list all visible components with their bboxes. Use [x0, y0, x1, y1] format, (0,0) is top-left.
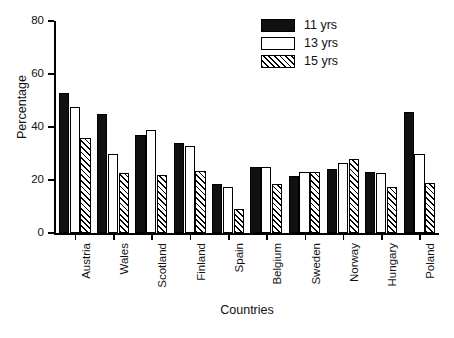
bar — [349, 159, 359, 233]
x-tick-label: Spain — [233, 243, 245, 272]
bar — [119, 173, 129, 233]
x-tick-label: Scotland — [156, 243, 168, 288]
x-tick-mark — [343, 234, 345, 240]
x-tick-mark — [113, 234, 115, 240]
bar — [327, 169, 337, 233]
bar — [146, 130, 156, 233]
legend-item: 13 yrs — [261, 34, 338, 52]
x-axis-title: Countries — [0, 303, 454, 317]
bar — [261, 167, 271, 233]
y-tick-mark — [48, 126, 54, 128]
x-tick-label: Austria — [80, 243, 92, 279]
y-tick-mark — [48, 73, 54, 75]
legend-swatch-open — [261, 37, 295, 50]
x-tick-mark — [75, 234, 77, 240]
bar — [157, 175, 167, 233]
bar — [97, 114, 107, 233]
y-tick-mark — [48, 179, 54, 181]
bar — [387, 187, 397, 233]
bar — [404, 112, 414, 233]
bar — [59, 93, 69, 233]
x-tick-label: Belgium — [271, 243, 283, 285]
legend-item: 15 yrs — [261, 52, 338, 70]
bar — [250, 167, 260, 233]
bar — [70, 107, 80, 233]
bar — [425, 183, 435, 233]
x-tick-label: Sweden — [310, 243, 322, 285]
legend-swatch-hatch — [261, 55, 295, 68]
x-tick-label: Finland — [195, 243, 207, 281]
legend-item: 11 yrs — [261, 16, 338, 34]
bar — [376, 173, 386, 233]
y-tick-label: 40 — [4, 121, 44, 131]
legend-label: 11 yrs — [304, 19, 337, 31]
x-tick-mark — [381, 234, 383, 240]
bar — [108, 154, 118, 234]
y-tick-label: 0 — [4, 227, 44, 237]
bar — [174, 143, 184, 233]
y-tick-mark — [48, 232, 54, 234]
bar — [365, 172, 375, 233]
bar — [223, 187, 233, 233]
y-tick-label: 80 — [4, 15, 44, 25]
x-tick-mark — [228, 234, 230, 240]
bar — [272, 184, 282, 233]
x-tick-mark — [151, 234, 153, 240]
x-tick-mark — [305, 234, 307, 240]
bar-group — [97, 21, 129, 233]
bar-group — [174, 21, 206, 233]
bar — [338, 163, 348, 233]
x-tick-label: Norway — [348, 243, 360, 282]
bar — [414, 154, 424, 234]
x-tick-label: Poland — [424, 243, 436, 279]
x-tick-label: Hungary — [386, 243, 398, 286]
chart-legend: 11 yrs13 yrs15 yrs — [261, 16, 338, 70]
bar-group — [365, 21, 397, 233]
legend-label: 15 yrs — [304, 55, 338, 67]
legend-label: 13 yrs — [304, 37, 338, 49]
x-tick-mark — [419, 234, 421, 240]
bar — [195, 171, 205, 233]
bar-chart: Percentage 020406080 AustriaWalesScotlan… — [0, 0, 454, 338]
bar — [234, 209, 244, 233]
y-tick-label: 20 — [4, 174, 44, 184]
bar — [299, 172, 309, 233]
bar — [289, 176, 299, 233]
plot-area — [56, 21, 439, 233]
bar — [135, 135, 145, 233]
y-tick-label: 60 — [4, 68, 44, 78]
legend-swatch-solid — [261, 19, 295, 32]
x-tick-label: Wales — [118, 243, 130, 275]
x-tick-mark — [266, 234, 268, 240]
x-tick-mark — [190, 234, 192, 240]
y-tick-mark — [48, 20, 54, 22]
bar-group — [212, 21, 244, 233]
bar — [212, 184, 222, 233]
bar — [310, 172, 320, 233]
bar — [80, 138, 90, 233]
bar-group — [404, 21, 436, 233]
bar-group — [59, 21, 91, 233]
bar — [185, 146, 195, 233]
bar-group — [135, 21, 167, 233]
